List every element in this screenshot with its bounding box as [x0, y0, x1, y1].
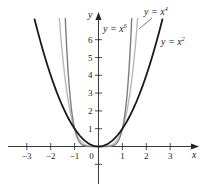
y-axis-arrow-icon [96, 12, 102, 20]
y-tick-label: 2 [88, 106, 93, 116]
power-functions-chart: −3−2−10123 123456 x y y = x6 y = x4 y = … [0, 0, 206, 186]
label-x4: y = x4 [143, 6, 168, 17]
x-tick-label: 0 [89, 151, 94, 161]
x-axis-label: x [191, 149, 197, 160]
x-tick-label: 3 [168, 151, 173, 161]
curve-labels: y = x6 y = x4 y = x2 [102, 6, 185, 47]
x-tick-label: 1 [120, 151, 125, 161]
y-tick-label: 3 [88, 88, 93, 98]
x-tick-label: 2 [144, 151, 149, 161]
y-axis-label: y [87, 9, 93, 20]
x-tick-label: −2 [46, 151, 56, 161]
x-tick-label: −1 [70, 151, 80, 161]
y-tick-label: 5 [88, 53, 93, 63]
label-x4-leader-line [139, 18, 152, 29]
label-x6: y = x6 [102, 23, 127, 34]
y-tick-label: 1 [88, 124, 93, 134]
y-tick-label: 6 [88, 35, 93, 45]
x-tick-label: −3 [22, 151, 32, 161]
label-x2: y = x2 [160, 36, 185, 47]
y-tick-label: 4 [88, 70, 93, 80]
